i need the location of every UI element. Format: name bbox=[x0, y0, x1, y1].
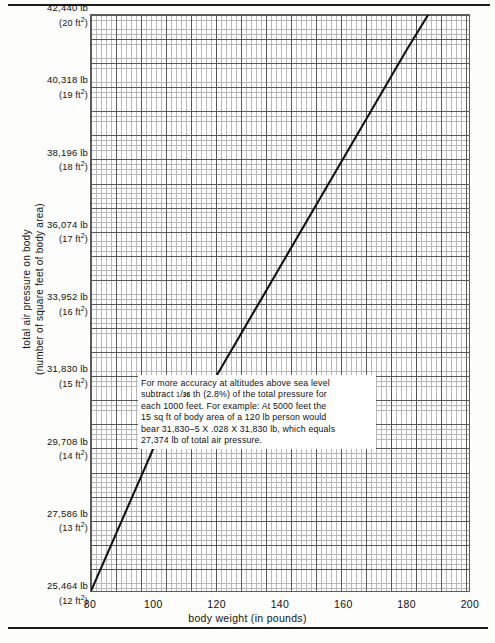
y-tick-pounds: 42,440 lb bbox=[2, 2, 88, 14]
y-tick-pounds: 40,318 lb bbox=[2, 74, 88, 86]
y-tick-area: (15 ft2) bbox=[2, 375, 88, 391]
chart-plot-area bbox=[90, 14, 470, 592]
note-line-6: 27,374 lb of total air pressure. bbox=[141, 435, 374, 446]
y-tick-pounds: 38,196 lb bbox=[2, 147, 88, 159]
y-tick-pounds: 36,074 lb bbox=[2, 219, 88, 231]
y-axis-tick-38196: 38,196 lb(18 ft2) bbox=[2, 147, 88, 174]
y-tick-area: (17 ft2) bbox=[2, 230, 88, 246]
y-axis-tick-29708: 29,708 lb(14 ft2) bbox=[2, 436, 88, 463]
y-tick-pounds: 25,464 lb bbox=[2, 580, 88, 592]
x-axis-tick-80: 80 bbox=[70, 598, 110, 610]
note-line-2-suffix: th (2.8%) of the total pressure for bbox=[190, 389, 326, 399]
fraction-one-thirtysixth: 1/36 bbox=[176, 389, 190, 400]
y-tick-pounds: 31,830 lb bbox=[2, 363, 88, 375]
x-axis-tick-200: 200 bbox=[450, 598, 490, 610]
x-axis-tick-100: 100 bbox=[133, 598, 173, 610]
y-axis-tick-31830: 31,830 lb(15 ft2) bbox=[2, 363, 88, 390]
note-line-4: 15 sq ft of body area of a 120 lb person… bbox=[141, 412, 374, 423]
data-series-line bbox=[91, 15, 469, 591]
y-axis-tick-33952: 33,952 lb(16 ft2) bbox=[2, 291, 88, 318]
y-tick-area: (13 ft2) bbox=[2, 519, 88, 535]
note-line-2-prefix: subtract bbox=[141, 389, 176, 399]
y-tick-pounds: 33,952 lb bbox=[2, 291, 88, 303]
x-axis-title: body weight (in pounds) bbox=[0, 612, 495, 624]
y-tick-area: (14 ft2) bbox=[2, 447, 88, 463]
note-line-1: For more accuracy at altitudes above sea… bbox=[141, 378, 374, 389]
y-tick-area: (20 ft2) bbox=[2, 14, 88, 30]
x-axis-tick-180: 180 bbox=[387, 598, 427, 610]
y-axis-tick-27586: 27,586 lb(13 ft2) bbox=[2, 508, 88, 535]
note-line-5: bear 31,830–5 X .028 X 31,830 lb, which … bbox=[141, 424, 374, 435]
x-axis-tick-140: 140 bbox=[260, 598, 300, 610]
x-axis-tick-120: 120 bbox=[197, 598, 237, 610]
y-tick-area: (19 ft2) bbox=[2, 86, 88, 102]
bottom-divider-rule bbox=[8, 627, 488, 629]
y-tick-pounds: 27,586 lb bbox=[2, 508, 88, 520]
y-tick-pounds: 29,708 lb bbox=[2, 436, 88, 448]
note-line-3: each 1000 feet. For example: At 5000 fee… bbox=[141, 401, 374, 412]
y-axis-tick-40318: 40,318 lb(19 ft2) bbox=[2, 74, 88, 101]
y-axis-tick-42440: 42,440 lb(20 ft2) bbox=[2, 2, 88, 29]
y-tick-area: (18 ft2) bbox=[2, 158, 88, 174]
y-axis-tick-36074: 36,074 lb(17 ft2) bbox=[2, 219, 88, 246]
accuracy-note-box: For more accuracy at altitudes above sea… bbox=[138, 375, 376, 449]
x-axis-tick-160: 160 bbox=[323, 598, 363, 610]
y-tick-area: (16 ft2) bbox=[2, 303, 88, 319]
note-line-2: subtract 1/36 th (2.8%) of the total pre… bbox=[141, 389, 374, 400]
fraction-numerator: 1 bbox=[176, 391, 180, 398]
